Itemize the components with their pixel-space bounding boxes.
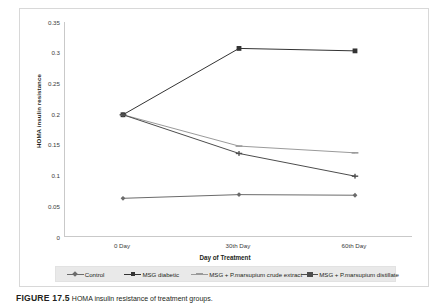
plot-area	[64, 22, 412, 237]
x-axis-title: Day of Treatment	[20, 254, 430, 261]
data-point-diamond	[353, 193, 358, 198]
legend-label: MSG + P.marsupium crude extract	[209, 271, 302, 278]
y-tick-label: 0.1	[34, 172, 60, 179]
figure-number: FIGURE 17.5	[16, 293, 70, 303]
x-tick-label: 60th Day	[319, 242, 389, 250]
legend-item[interactable]: Control	[56, 270, 115, 278]
data-point-star	[352, 174, 358, 179]
legend-marker-star-icon	[301, 270, 318, 278]
y-tick-label: 0.25	[34, 80, 60, 87]
y-tick-label: 0.2	[34, 111, 60, 118]
legend-marker-square-icon	[124, 270, 141, 278]
data-point-square	[353, 48, 358, 53]
legend-label: MSG diabetic	[142, 271, 179, 278]
legend-label: Control	[85, 271, 105, 278]
data-point-diamond	[237, 192, 242, 197]
legend-item[interactable]: MSG diabetic	[115, 270, 188, 278]
figure-panel: HOMA insulin resistance 0.350.30.250.20.…	[19, 8, 429, 287]
legend-marker-dash-icon	[191, 270, 208, 278]
chart-legend: ControlMSG diabeticMSG + P.marsupium cru…	[55, 266, 396, 282]
legend-marker-diamond-icon	[67, 270, 84, 278]
y-tick-label: 0.3	[34, 49, 60, 56]
series-lines	[65, 22, 413, 237]
figure-caption: FIGURE 17.5 HOMA insulin resistance of t…	[16, 293, 436, 303]
data-point-dash	[236, 145, 243, 147]
series-line	[123, 115, 355, 153]
y-tick-label: 0.05	[34, 203, 60, 210]
legend-item[interactable]: MSG + P.marsupium crude extract	[188, 270, 305, 278]
chart-area: HOMA insulin resistance 0.350.30.250.20.…	[20, 9, 430, 288]
y-tick-label: 0.35	[34, 19, 60, 26]
figure-caption-text: HOMA insulin resistance of treatment gro…	[72, 295, 213, 302]
series-line	[123, 48, 355, 114]
y-tick-label: 0	[34, 234, 60, 241]
data-point-square	[237, 46, 242, 51]
legend-label: MSG + P.marsupium distillate	[319, 271, 399, 278]
x-tick-label: 0 Day	[87, 242, 157, 250]
y-tick-label: 0.15	[34, 141, 60, 148]
data-point-dash	[352, 152, 359, 154]
legend-item[interactable]: MSG + P.marsupium distillate	[305, 270, 395, 278]
data-point-star	[236, 151, 242, 156]
x-tick-label: 30th Day	[203, 242, 273, 250]
y-axis-ticks: 0.350.30.250.20.150.10.050	[24, 9, 60, 288]
data-point-diamond	[121, 196, 126, 201]
